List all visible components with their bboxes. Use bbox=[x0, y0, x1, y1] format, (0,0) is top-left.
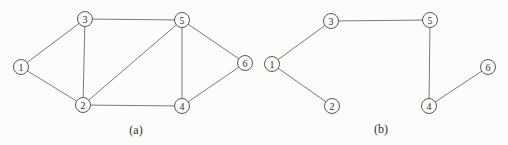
graph-a-edge-1-3 bbox=[21, 19, 85, 67]
graph-b-node-6-label: 6 bbox=[486, 62, 491, 73]
graph-b-node-5-label: 5 bbox=[428, 15, 433, 26]
graph-b-caption: (b) bbox=[374, 122, 388, 136]
graph-a-edge-2-4 bbox=[83, 105, 182, 106]
graph-diagram-svg: 123456(a)123456(b) bbox=[0, 0, 508, 145]
graph-a-edge-4-6 bbox=[182, 63, 245, 106]
graph-a: 123456(a) bbox=[14, 12, 253, 138]
graph-a-edge-2-3 bbox=[83, 19, 85, 105]
graph-a-edge-1-2 bbox=[21, 67, 83, 105]
graph-figure: 123456(a)123456(b) bbox=[0, 0, 508, 145]
graph-a-node-3-label: 3 bbox=[83, 14, 88, 25]
graph-a-edge-2-5 bbox=[83, 20, 182, 105]
graph-b: 123456(b) bbox=[265, 13, 496, 137]
graph-a-caption: (a) bbox=[129, 123, 142, 137]
graph-a-node-4-label: 4 bbox=[180, 101, 185, 112]
graph-a-node-6-label: 6 bbox=[243, 58, 248, 69]
graph-b-edge-1-3 bbox=[272, 21, 331, 64]
graph-a-node-1-label: 1 bbox=[19, 62, 24, 73]
graph-b-edge-1-2 bbox=[272, 64, 332, 106]
graph-a-edge-3-5 bbox=[85, 19, 182, 20]
graph-b-node-4-label: 4 bbox=[427, 101, 432, 112]
graph-b-edge-4-6 bbox=[429, 67, 488, 106]
graph-b-node-3-label: 3 bbox=[329, 16, 334, 27]
graph-a-node-2-label: 2 bbox=[81, 100, 86, 111]
graph-b-edge-4-5 bbox=[429, 20, 430, 106]
graph-b-node-2-label: 2 bbox=[330, 101, 335, 112]
graph-b-node-1-label: 1 bbox=[270, 59, 275, 70]
graph-a-node-5-label: 5 bbox=[180, 15, 185, 26]
graph-a-edge-5-6 bbox=[182, 20, 245, 63]
graph-b-edge-3-5 bbox=[331, 20, 430, 21]
